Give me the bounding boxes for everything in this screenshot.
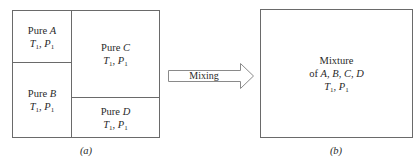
cell-pure-b-title: Pure B [28, 87, 56, 100]
cell-pure-c-conditions: T1, P1 [103, 54, 128, 67]
cell-pure-d-title: Pure D [101, 105, 130, 118]
cell-pure-a-title: Pure A [28, 24, 56, 37]
cell-pure-c-title: Pure C [101, 41, 130, 54]
cell-pure-d-conditions: T1, P1 [103, 118, 128, 131]
cell-pure-a: Pure A T1, P1 [13, 11, 71, 62]
panel-a-caption: (a) [66, 145, 106, 156]
mixing-label: Mixing [168, 70, 240, 82]
mixture-conditions: T1, P1 [324, 80, 349, 93]
panel-b-caption: (b) [316, 145, 356, 156]
cell-pure-a-conditions: T1, P1 [30, 37, 55, 50]
mixture-title: Mixture [320, 54, 354, 67]
cell-pure-b-conditions: T1, P1 [30, 100, 55, 113]
mixture-components: of A, B, C, D [309, 67, 364, 80]
cell-pure-b: Pure B T1, P1 [13, 63, 71, 137]
cell-pure-d: Pure D T1, P1 [72, 98, 159, 137]
mixture-cell: Mixture of A, B, C, D T1, P1 [261, 10, 412, 137]
cell-pure-c: Pure C T1, P1 [72, 11, 159, 97]
